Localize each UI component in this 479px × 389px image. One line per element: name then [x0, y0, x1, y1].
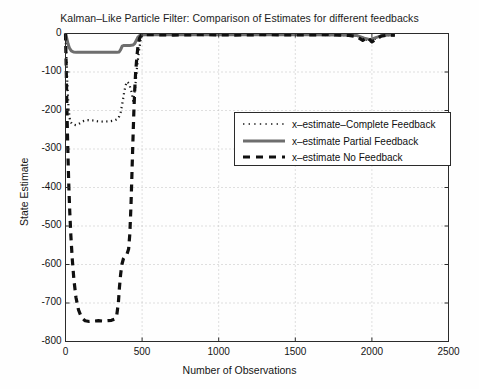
x-tick-label: 2000	[347, 346, 397, 357]
legend-label: x–estimate–Complete Feedback	[292, 119, 435, 130]
plot-area	[0, 0, 479, 389]
data-series-layer	[66, 34, 395, 322]
series-line	[66, 34, 395, 53]
y-tick-label: -700	[22, 296, 62, 307]
legend-swatch-dashed-icon	[241, 150, 287, 164]
series-line	[66, 34, 395, 322]
gridlines	[66, 34, 449, 342]
y-tick-label: -100	[22, 65, 62, 76]
plot-frame	[66, 34, 449, 342]
figure-canvas: Kalman–Like Particle Filter: Comparison …	[0, 0, 479, 389]
x-axis-label: Number of Observations	[0, 364, 479, 376]
axis-ticks	[66, 34, 449, 342]
x-tick-label: 1500	[270, 346, 320, 357]
y-tick-label: 0	[22, 27, 62, 38]
legend-item-no-feedback: x–estimate No Feedback	[241, 149, 403, 165]
y-axis-label: State Estimate	[18, 157, 30, 225]
legend-item-partial-feedback: x–estimate Partial Feedback	[241, 133, 418, 149]
legend-item-complete-feedback: x–estimate–Complete Feedback	[241, 116, 435, 132]
y-tick-label: -600	[22, 258, 62, 269]
x-tick-label: 500	[117, 346, 167, 357]
x-tick-label: 2500	[424, 346, 474, 357]
y-tick-label: -800	[22, 335, 62, 346]
y-tick-label: -200	[22, 104, 62, 115]
legend-label: x–estimate No Feedback	[292, 152, 403, 163]
legend-swatch-solid-icon	[241, 134, 287, 148]
y-tick-label: -300	[22, 142, 62, 153]
legend-label: x–estimate Partial Feedback	[292, 136, 418, 147]
legend-swatch-dotted-icon	[241, 117, 287, 131]
x-tick-label: 1000	[194, 346, 244, 357]
x-tick-label: 0	[41, 346, 91, 357]
legend: x–estimate–Complete Feedback x–estimate …	[234, 112, 451, 166]
